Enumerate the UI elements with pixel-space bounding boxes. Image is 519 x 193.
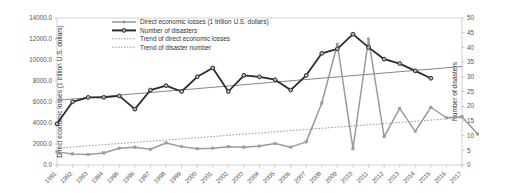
disaster-count-marker <box>413 69 417 73</box>
economic-losses-marker <box>476 133 478 135</box>
economic-losses-marker <box>103 152 105 154</box>
economic-losses-marker <box>180 145 182 147</box>
y2-axis-tick-label: 45 <box>467 29 475 36</box>
economic-losses-marker <box>461 116 463 118</box>
x-axis-tick-label: 1997 <box>136 169 151 184</box>
y-axis-tick-label: 12000.0 <box>29 35 52 42</box>
economic-losses-marker <box>383 135 385 137</box>
x-axis-tick-label: 2009 <box>323 169 338 184</box>
disaster-count-marker <box>382 57 386 61</box>
legend-label-1: Number of disasters <box>140 27 197 34</box>
y2-axis-tick-label: 30 <box>467 73 475 80</box>
y2-axis-tick-label: 0 <box>467 161 471 168</box>
x-axis-tick-label: 1998 <box>152 169 167 184</box>
legend-marker-0 <box>123 21 125 23</box>
disaster-count-marker <box>273 78 277 82</box>
disaster-count-marker <box>242 73 246 77</box>
x-axis-tick-label: 2011 <box>355 169 370 184</box>
disaster-count-marker <box>335 47 339 51</box>
disaster-count-marker <box>102 95 106 99</box>
economic-losses-marker <box>352 148 354 150</box>
disaster-count-marker <box>211 66 215 70</box>
x-axis-tick-label: 2012 <box>370 169 385 184</box>
y2-axis-tick-label: 50 <box>467 14 475 21</box>
y2-axis-title: Number of disasters <box>451 61 458 121</box>
x-axis-tick-label: 2000 <box>183 169 198 184</box>
y-axis-tick-label: 14000.0 <box>29 14 52 21</box>
y-axis-tick-label: 2000.0 <box>33 140 53 147</box>
x-axis-tick-label: 2017 <box>448 169 463 184</box>
y2-axis-tick-label: 5 <box>467 147 471 154</box>
economic-losses-marker <box>305 141 307 143</box>
x-axis-tick-label: 2006 <box>277 169 292 184</box>
y-axis-tick-label: 6000.0 <box>33 98 53 105</box>
x-axis-tick-label: 2004 <box>246 169 261 184</box>
economic-losses-marker <box>134 146 136 148</box>
disaster-count-marker <box>180 90 184 94</box>
disaster-count-marker <box>133 107 137 111</box>
x-axis-tick-label: 1992 <box>59 169 74 184</box>
y2-axis-tick-label: 40 <box>467 44 475 51</box>
disaster-count-marker <box>117 94 121 98</box>
y-axis-tick-label: 8000.0 <box>33 77 53 84</box>
disaster-count-marker <box>320 51 324 55</box>
y2-axis-tick-label: 35 <box>467 58 475 65</box>
x-axis-tick-label: 2002 <box>214 169 229 184</box>
x-axis-tick-label: 1996 <box>121 169 136 184</box>
x-axis-tick-label: 1995 <box>105 169 120 184</box>
economic-losses-marker <box>445 117 447 119</box>
economic-losses-marker <box>258 145 260 147</box>
y-axis-tick-label: 0.0 <box>43 161 52 168</box>
disaster-count-marker <box>258 75 262 79</box>
x-axis-tick-label: 2008 <box>308 169 323 184</box>
disaster-count-marker <box>226 90 230 94</box>
economic-losses-marker <box>212 147 214 149</box>
x-axis-tick-label: 2001 <box>199 169 214 184</box>
disaster-count-marker <box>86 95 90 99</box>
economic-losses-marker <box>336 43 338 45</box>
x-axis-tick-label: 2007 <box>292 169 307 184</box>
economic-losses-marker <box>87 153 89 155</box>
disaster-count-marker <box>149 88 153 92</box>
x-axis-tick-label: 1994 <box>90 169 105 184</box>
y-axis-tick-label: 4000.0 <box>33 119 53 126</box>
disaster-count-marker <box>367 46 371 50</box>
x-axis-tick-label: 1991 <box>43 169 58 184</box>
disaster-count-marker <box>289 88 293 92</box>
x-axis-tick-label: 1999 <box>168 169 183 184</box>
x-axis-tick-label: 2005 <box>261 169 276 184</box>
economic-losses-marker <box>196 148 198 150</box>
disaster-count-marker <box>164 84 168 88</box>
economic-losses-marker <box>367 38 369 40</box>
economic-losses-marker <box>56 151 58 153</box>
legend-label-0: Direct economic losses (1 trillion U.S. … <box>140 18 269 26</box>
y2-axis-tick-label: 25 <box>467 88 475 95</box>
disaster-count-marker <box>55 122 59 126</box>
disaster-count-marker <box>304 73 308 77</box>
legend-marker-1 <box>122 29 126 33</box>
x-axis-tick-label: 2015 <box>417 169 432 184</box>
x-axis-tick-label: 2010 <box>339 169 354 184</box>
economic-losses-marker <box>227 145 229 147</box>
y-axis-tick-label: 10000.0 <box>29 56 52 63</box>
disaster-count-marker <box>71 100 75 104</box>
x-axis-tick-label: 2003 <box>230 169 245 184</box>
economic-losses-marker <box>398 107 400 109</box>
y-axis-title: Direct economic losses (1 trillion U.S. … <box>56 25 64 158</box>
disaster-count-marker <box>195 75 199 79</box>
plot-area <box>57 18 462 165</box>
economic-losses-marker <box>243 146 245 148</box>
economic-losses-marker <box>118 147 120 149</box>
economic-losses-marker <box>71 153 73 155</box>
disaster-count-marker <box>351 32 355 36</box>
legend-label-2: Trend of direct economic losses <box>140 35 230 42</box>
economic-losses-marker <box>289 146 291 148</box>
economic-losses-marker <box>414 130 416 132</box>
economic-losses-marker <box>165 142 167 144</box>
disaster-count-marker <box>429 76 433 80</box>
economic-losses-marker <box>321 102 323 104</box>
economic-losses-marker <box>149 148 151 150</box>
chart-container: 0.02000.04000.06000.08000.010000.012000.… <box>0 0 519 193</box>
economic-losses-marker <box>274 142 276 144</box>
x-axis-tick-label: 2014 <box>401 169 416 184</box>
